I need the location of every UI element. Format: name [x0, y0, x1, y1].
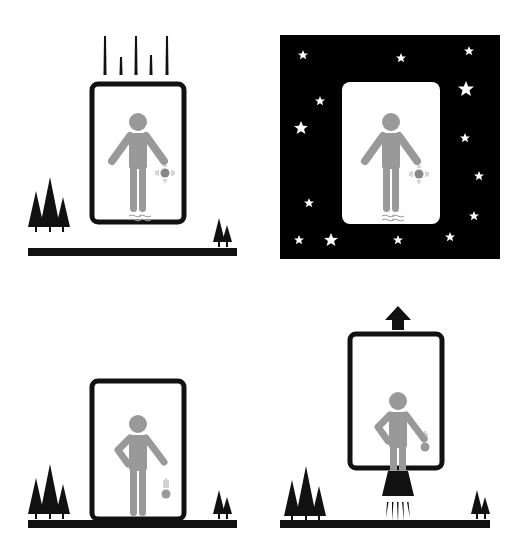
panel-resting-elevator: [28, 381, 237, 528]
trees-icon: [471, 490, 490, 519]
trees-icon: [28, 464, 70, 519]
ground-line: [28, 520, 237, 528]
diagram-canvas: [0, 0, 513, 535]
up-arrow-icon: [385, 306, 411, 330]
panel-space-elevator: [280, 35, 500, 259]
ground-line: [280, 520, 490, 528]
panel-rocket-elevator: [280, 306, 490, 528]
panel-falling-elevator: [28, 36, 237, 256]
speed-lines-icon: [104, 36, 169, 75]
trees-icon: [213, 218, 232, 247]
rocket-thruster-icon: [382, 471, 414, 524]
trees-icon: [284, 466, 326, 521]
ground-line: [28, 248, 237, 256]
trees-icon: [28, 177, 70, 232]
trees-icon: [213, 490, 232, 519]
